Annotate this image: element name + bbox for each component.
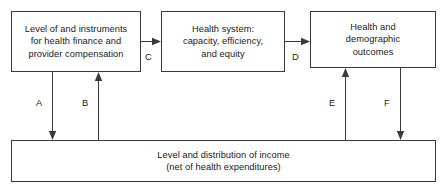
diagram-canvas: Level of and instruments for health fina… [0,0,448,192]
node-health-system: Health system: capacity, efficiency, and… [161,11,285,72]
node-health-finance: Level of and instruments for health fina… [11,11,141,72]
arrow-a [49,72,56,140]
edge-label-c: C [145,52,152,63]
node-income-distribution: Level and distribution of income (net of… [11,140,436,182]
arrow-e [342,68,349,140]
edge-label-f: F [384,98,390,109]
node-health-system-label: Health system: capacity, efficiency, and… [179,23,267,60]
edge-label-b: B [82,98,88,109]
arrow-d [285,38,310,45]
node-health-outcomes-label: Health and demographic outcomes [342,21,404,58]
node-health-outcomes: Health and demographic outcomes [310,11,436,68]
node-health-finance-label: Level of and instruments for health fina… [21,23,132,60]
edge-label-d: D [292,52,299,63]
arrow-c [141,38,161,45]
edge-label-e: E [329,98,335,109]
edge-label-a: A [36,98,42,109]
arrow-f [397,68,404,140]
node-income-distribution-label: Level and distribution of income (net of… [153,149,293,174]
arrow-b [95,72,102,140]
